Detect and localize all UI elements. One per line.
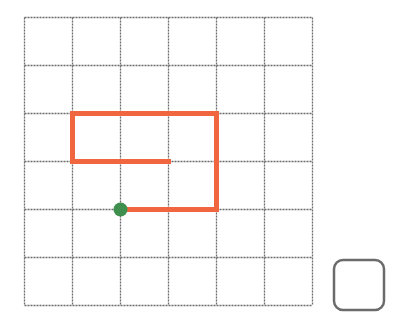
answer-box[interactable] [334,260,384,310]
start-point-dot [114,203,128,217]
grid-diagram [0,0,395,327]
orange-route-path [73,114,217,210]
